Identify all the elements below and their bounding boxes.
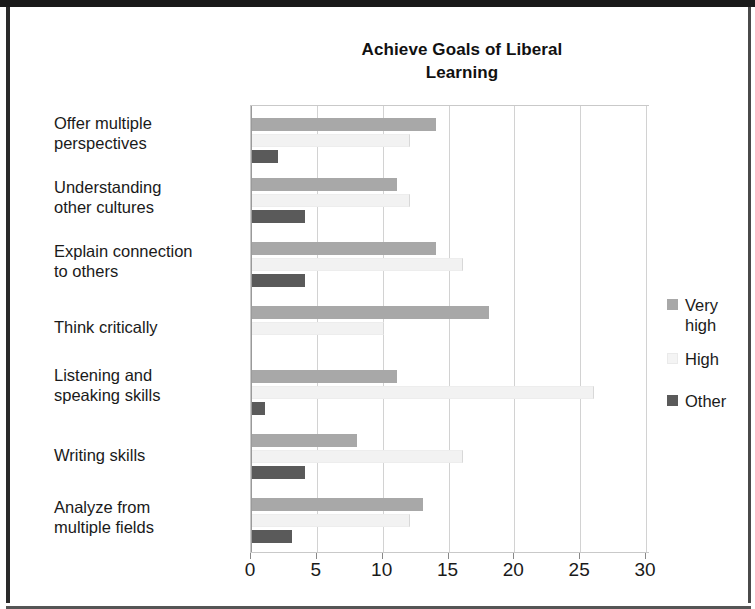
chart-canvas: Achieve Goals of Liberal Learning Offer … — [12, 10, 742, 602]
bar-high — [252, 514, 410, 527]
bar-vhigh — [252, 498, 423, 511]
bar-high — [252, 450, 463, 463]
legend-label: High — [685, 349, 719, 369]
page-frame-right-edge — [748, 7, 751, 603]
chart-title-line-1: Achieve Goals of Liberal — [252, 38, 672, 61]
bar-group — [252, 178, 649, 223]
bar-vhigh — [252, 370, 397, 383]
bar-high — [252, 322, 384, 335]
category-label-7: Analyze from multiple fields — [54, 497, 244, 537]
axis-tick-label-0: 0 — [230, 559, 270, 581]
axis-tick-label-25: 25 — [559, 559, 599, 581]
bar-other — [252, 274, 305, 287]
legend-item[interactable]: Other — [667, 391, 726, 411]
category-label-3: Explain connection to others — [54, 241, 244, 281]
legend-label: Other — [685, 391, 726, 411]
legend-swatch-icon — [667, 353, 678, 364]
axis-tick-label-10: 10 — [362, 559, 402, 581]
legend-swatch-icon — [667, 299, 678, 310]
axis-tick-label-20: 20 — [493, 559, 533, 581]
category-label-5: Listening and speaking skills — [54, 365, 244, 405]
axis-tick-label-15: 15 — [428, 559, 468, 581]
category-label-2: Understanding other cultures — [54, 177, 244, 217]
category-label-6: Writing skills — [54, 445, 244, 465]
legend-swatch-icon — [667, 395, 678, 406]
bar-high — [252, 194, 410, 207]
axis-tick-label-30: 30 — [625, 559, 665, 581]
page-frame-top-edge — [0, 0, 755, 7]
legend-item[interactable]: High — [667, 349, 719, 369]
bar-vhigh — [252, 306, 489, 319]
page-frame-left-edge — [6, 7, 10, 603]
bar-other — [252, 150, 278, 163]
scanned-chart-page: Achieve Goals of Liberal Learning Offer … — [0, 0, 755, 609]
axis-tick-label-5: 5 — [296, 559, 336, 581]
bar-high — [252, 258, 463, 271]
bar-high — [252, 386, 594, 399]
bar-vhigh — [252, 242, 436, 255]
category-label-4: Think critically — [54, 317, 244, 337]
bar-group — [252, 434, 649, 479]
bar-vhigh — [252, 118, 436, 131]
plot-area — [250, 105, 649, 553]
bar-group — [252, 498, 649, 543]
bar-vhigh — [252, 178, 397, 191]
bar-other — [252, 402, 265, 415]
bar-vhigh — [252, 434, 357, 447]
chart-title: Achieve Goals of Liberal Learning — [252, 38, 672, 84]
bar-other — [252, 466, 305, 479]
bar-group — [252, 370, 649, 415]
legend-label: Very high — [685, 295, 718, 335]
chart-title-line-2: Learning — [252, 61, 672, 84]
bar-group — [252, 242, 649, 287]
bar-other — [252, 530, 292, 543]
legend-item[interactable]: Very high — [667, 295, 718, 335]
bar-other — [252, 210, 305, 223]
bar-high — [252, 134, 410, 147]
bar-group — [252, 118, 649, 163]
bar-group — [252, 306, 649, 351]
category-label-1: Offer multiple perspectives — [54, 113, 244, 153]
